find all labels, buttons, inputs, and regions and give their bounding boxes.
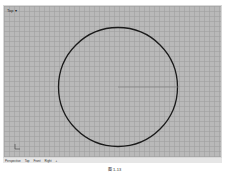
tab-top[interactable]: Top [25,159,30,163]
tab-perspective[interactable]: Perspective [5,159,21,163]
tab-right[interactable]: Right [45,159,52,163]
drawing-canvas[interactable] [0,0,229,172]
add-tab-button[interactable]: + [56,159,58,163]
viewport-tabs: Perspective Top Front Right + [3,158,222,163]
tab-front[interactable]: Front [34,159,41,163]
figure-caption: 图 1-13 [108,166,121,172]
